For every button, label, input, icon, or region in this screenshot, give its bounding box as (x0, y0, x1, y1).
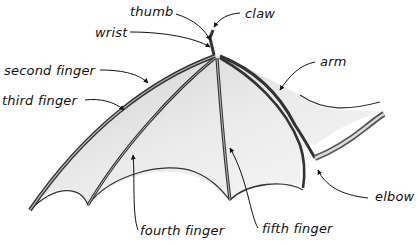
elbow-pointer (318, 170, 368, 198)
second-finger-pointer (100, 70, 148, 83)
thumb-pointer (176, 14, 210, 40)
label-arm: arm (320, 55, 347, 68)
wrist-pointer (130, 32, 210, 47)
arm-pointer (280, 62, 315, 90)
bat-wing-diagram: thumb claw wrist second finger third fin… (0, 0, 418, 245)
claw-pointer (214, 13, 240, 27)
label-fourth-finger: fourth finger (140, 224, 224, 237)
label-fifth-finger: fifth finger (262, 222, 333, 235)
label-thumb: thumb (130, 5, 174, 18)
label-elbow: elbow (375, 190, 414, 203)
bat-wing-illustration (0, 0, 418, 245)
third-finger-pointer (85, 99, 124, 110)
label-third-finger: third finger (2, 94, 77, 107)
thumb-bone (210, 30, 214, 55)
label-wrist: wrist (95, 26, 127, 39)
label-claw: claw (245, 7, 275, 20)
label-second-finger: second finger (4, 64, 95, 77)
